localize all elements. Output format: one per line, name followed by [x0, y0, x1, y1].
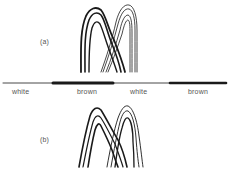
panel-b-label: (b) — [40, 136, 49, 143]
panel-a-label: (a) — [40, 38, 49, 45]
panel-a-dark-loops — [81, 8, 125, 72]
band-label-white-1: white — [12, 88, 29, 95]
band-label-white-2: white — [130, 88, 147, 95]
band-label-brown-2: brown — [188, 88, 208, 95]
band-label-brown-1: brown — [77, 88, 97, 95]
